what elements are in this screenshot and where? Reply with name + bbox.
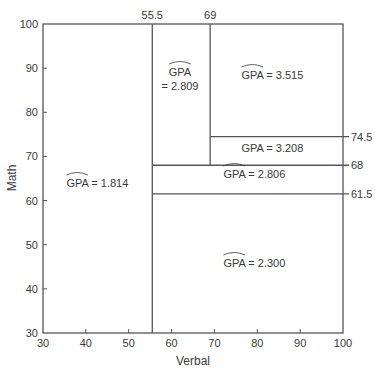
region-label-gpa-2.809: GPA= 2.809 bbox=[161, 62, 198, 93]
region-label-gpa-3.515: GPA = 3.515 bbox=[241, 65, 303, 82]
x-tick-label: 100 bbox=[334, 337, 352, 349]
gpa-label: GPA = 2.300 bbox=[223, 257, 285, 269]
region-label-gpa-1.814: GPA = 1.814 bbox=[66, 173, 128, 190]
region-label-gpa-2.806: GPA = 2.806 bbox=[223, 164, 285, 181]
region-label-gpa-2.3: GPA = 2.300 bbox=[223, 253, 285, 270]
x-tick-label: 80 bbox=[251, 337, 263, 349]
y-tick-label: 60 bbox=[26, 195, 38, 207]
split-annotation-top: 69 bbox=[204, 9, 216, 21]
y-tick-label: 90 bbox=[26, 62, 38, 74]
gpa-label: GPA = 3.208 bbox=[241, 142, 303, 154]
y-tick-label: 80 bbox=[26, 106, 38, 118]
partition-plot: 3040506070809010030405060708090100 55.56… bbox=[0, 0, 375, 373]
x-tick-label: 50 bbox=[123, 337, 135, 349]
gpa-value: = 2.809 bbox=[161, 80, 198, 92]
hat-icon bbox=[223, 253, 245, 256]
gpa-symbol: GPA bbox=[169, 66, 192, 78]
gpa-label: GPA = 2.806 bbox=[223, 168, 285, 180]
split-annotation-right: 68 bbox=[351, 159, 363, 171]
x-tick-label: 90 bbox=[294, 337, 306, 349]
hat-icon bbox=[66, 173, 88, 176]
y-tick-label: 50 bbox=[26, 239, 38, 251]
hat-icon bbox=[169, 62, 191, 65]
y-axis-label: Math bbox=[5, 165, 19, 192]
x-tick-label: 70 bbox=[208, 337, 220, 349]
gpa-label: GPA = 1.814 bbox=[66, 177, 128, 189]
split-annotation-top: 55.5 bbox=[142, 9, 163, 21]
split-annotation-right: 61.5 bbox=[351, 188, 372, 200]
x-tick-label: 60 bbox=[165, 337, 177, 349]
hat-icon bbox=[241, 65, 263, 68]
x-tick-label: 30 bbox=[37, 337, 49, 349]
y-tick-label: 40 bbox=[26, 283, 38, 295]
x-axis-label: Verbal bbox=[176, 354, 210, 368]
split-annotation-right: 74.5 bbox=[351, 131, 372, 143]
x-tick-label: 40 bbox=[80, 337, 92, 349]
region-label-gpa-3.208: GPA = 3.208 bbox=[241, 142, 303, 154]
y-tick-label: 30 bbox=[26, 327, 38, 339]
gpa-label: GPA = 3.515 bbox=[241, 69, 303, 81]
y-tick-label: 70 bbox=[26, 150, 38, 162]
y-tick-label: 100 bbox=[20, 18, 38, 30]
regression-tree-partition-diagram: 3040506070809010030405060708090100 55.56… bbox=[0, 0, 375, 373]
